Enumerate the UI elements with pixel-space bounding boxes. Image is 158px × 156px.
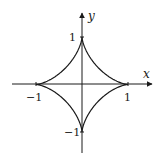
y-tick-label-1: 1 [69,31,76,44]
y-tick-label-neg1: −1 [64,126,80,139]
astroid-plot: x y −1 1 1 −1 [0,0,158,156]
x-tick-label-1: 1 [124,91,131,104]
x-axis-label: x [143,67,150,81]
y-axis-label: y [87,9,95,23]
x-tick-label-neg1: −1 [26,91,42,104]
